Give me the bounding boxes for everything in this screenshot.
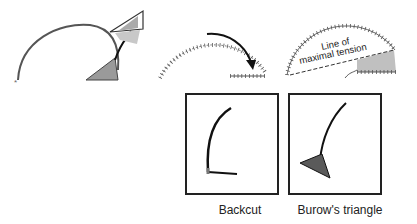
panel-sutured-rotation (160, 34, 265, 78)
flap-diagram: * Line of maximal t (0, 0, 417, 224)
caption-burow-triangle: Burow's triangle (290, 203, 390, 217)
backcut-box (186, 94, 278, 194)
svg-text:*: * (14, 78, 17, 87)
burow-box (289, 94, 381, 194)
caption-backcut: Backcut (210, 203, 270, 217)
panel-arc-triangle: * (14, 11, 143, 87)
